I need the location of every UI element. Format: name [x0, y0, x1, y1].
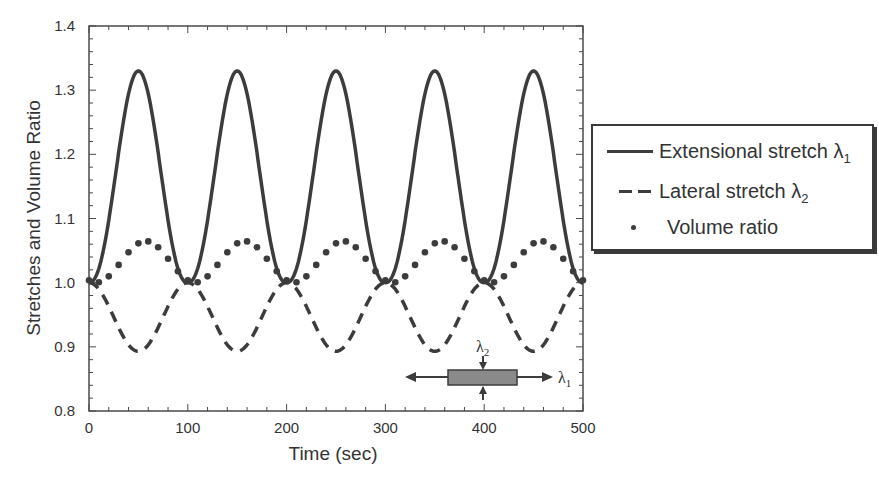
legend: Extensional stretch λ1 Lateral stretch λ… — [591, 124, 874, 251]
legend-item-extensional: Extensional stretch λ1 — [593, 136, 851, 166]
y-tick-label: 1.1 — [54, 210, 75, 227]
x-tick-label: 100 — [175, 419, 200, 436]
y-tick-label: 0.9 — [54, 338, 75, 355]
legend-item-lateral: Lateral stretch λ2 — [593, 176, 809, 206]
arrow-left-icon — [405, 372, 416, 382]
y-tick-label: 1.2 — [54, 145, 75, 162]
legend-label-volume: Volume ratio — [667, 216, 778, 239]
lambda1-label: λ1 — [558, 369, 571, 389]
arrow-up-icon — [479, 386, 487, 394]
x-tick-label: 400 — [472, 419, 497, 436]
inset-specimen-diagram: λ2 λ1 — [405, 338, 571, 400]
legend-label-lateral: Lateral stretch λ2 — [659, 180, 809, 203]
y-tick-label: 1.3 — [54, 81, 75, 98]
x-tick-label: 300 — [373, 419, 398, 436]
y-tick-labels: 0.80.91.01.11.21.31.4 — [54, 17, 75, 419]
series-group — [86, 71, 587, 351]
x-tick-label: 500 — [570, 419, 595, 436]
dot-marker-icon — [607, 217, 655, 237]
series-extensional-line — [89, 71, 583, 283]
legend-item-volume: Volume ratio — [593, 212, 778, 242]
axis-ticks — [89, 26, 583, 411]
y-tick-label: 1.0 — [54, 274, 75, 291]
dashed-line-icon — [607, 181, 655, 201]
arrow-right-icon — [542, 372, 553, 382]
x-axis-title: Time (sec) — [288, 443, 377, 464]
legend-label-extensional: Extensional stretch λ1 — [659, 140, 851, 163]
x-tick-labels: 0100200300400500 — [85, 419, 596, 436]
y-tick-label: 1.4 — [54, 17, 75, 34]
series-volume-dots — [86, 238, 587, 285]
series-lateral-line — [89, 283, 583, 352]
solid-line-icon — [607, 141, 655, 161]
plot-frame — [89, 26, 583, 411]
y-tick-label: 0.8 — [54, 402, 75, 419]
specimen-rect — [448, 370, 517, 385]
x-tick-label: 200 — [274, 419, 299, 436]
y-axis-title: Stretches and Volume Ratio — [23, 100, 44, 336]
lambda2-label: λ2 — [476, 338, 489, 358]
arrow-down-icon — [479, 362, 487, 370]
x-tick-label: 0 — [85, 419, 93, 436]
